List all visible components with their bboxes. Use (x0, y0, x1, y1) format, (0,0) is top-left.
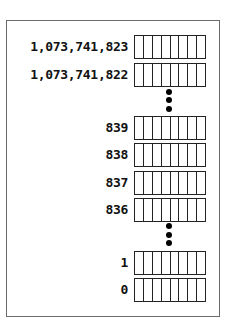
address-label: 1 (120, 251, 128, 275)
bit-cell (197, 117, 205, 139)
ellipsis-dot-icon (166, 97, 172, 103)
memory-row: 1,073,741,823 (0, 35, 236, 59)
ellipsis-dot-icon (166, 223, 172, 229)
memory-row: 0 (0, 278, 236, 302)
bit-cell (162, 172, 171, 194)
byte-cell (134, 198, 206, 222)
bit-cell (197, 252, 205, 274)
bit-cell (144, 64, 153, 86)
bit-cell (144, 117, 153, 139)
bit-cell (188, 117, 197, 139)
bit-cell (171, 279, 180, 301)
bit-cell (188, 144, 197, 166)
bit-cell (171, 117, 180, 139)
ellipsis-dot-icon (166, 240, 172, 246)
bit-cell (171, 252, 180, 274)
bit-cell (179, 172, 188, 194)
bit-cell (171, 144, 180, 166)
address-label: 1,073,741,823 (30, 35, 128, 59)
address-label: 837 (105, 171, 128, 195)
bit-cell (144, 279, 153, 301)
bit-cell (188, 279, 197, 301)
byte-cell (134, 251, 206, 275)
bit-cell (188, 252, 197, 274)
bit-cell (171, 172, 180, 194)
ellipsis-dot-icon (166, 232, 172, 238)
bit-cell (144, 144, 153, 166)
bit-cell (135, 36, 144, 58)
bit-cell (162, 144, 171, 166)
address-label: 836 (105, 198, 128, 222)
bit-cell (153, 172, 162, 194)
byte-cell (134, 63, 206, 87)
memory-row: 836 (0, 198, 236, 222)
byte-cell (134, 35, 206, 59)
bit-cell (197, 64, 205, 86)
byte-cell (134, 116, 206, 140)
bit-cell (153, 144, 162, 166)
bit-cell (171, 64, 180, 86)
bit-cell (162, 36, 171, 58)
bit-cell (197, 279, 205, 301)
memory-row: 837 (0, 171, 236, 195)
ellipsis-dot-icon (166, 89, 172, 95)
bit-cell (162, 117, 171, 139)
bit-cell (179, 199, 188, 221)
bit-cell (197, 172, 205, 194)
bit-cell (188, 199, 197, 221)
memory-row: 839 (0, 116, 236, 140)
bit-cell (197, 144, 205, 166)
bit-cell (135, 64, 144, 86)
ellipsis-dot-icon (166, 106, 172, 112)
bit-cell (144, 199, 153, 221)
address-label: 838 (105, 143, 128, 167)
bit-cell (153, 199, 162, 221)
byte-cell (134, 143, 206, 167)
bit-cell (153, 64, 162, 86)
bit-cell (162, 199, 171, 221)
address-label: 839 (105, 116, 128, 140)
memory-row: 838 (0, 143, 236, 167)
byte-cell (134, 171, 206, 195)
bit-cell (171, 36, 180, 58)
memory-row: 1,073,741,822 (0, 63, 236, 87)
bit-cell (153, 279, 162, 301)
bit-cell (144, 252, 153, 274)
bit-cell (197, 36, 205, 58)
bit-cell (135, 144, 144, 166)
bit-cell (144, 172, 153, 194)
bit-cell (162, 64, 171, 86)
bit-cell (153, 117, 162, 139)
bit-cell (179, 36, 188, 58)
bit-cell (188, 36, 197, 58)
bit-cell (153, 36, 162, 58)
bit-cell (135, 199, 144, 221)
bit-cell (179, 117, 188, 139)
bit-cell (179, 279, 188, 301)
bit-cell (135, 279, 144, 301)
memory-row: 1 (0, 251, 236, 275)
bit-cell (162, 252, 171, 274)
bit-cell (171, 199, 180, 221)
bit-cell (179, 64, 188, 86)
bit-cell (197, 199, 205, 221)
bit-cell (135, 172, 144, 194)
bit-cell (188, 172, 197, 194)
bit-cell (144, 36, 153, 58)
bit-cell (162, 279, 171, 301)
bit-cell (135, 117, 144, 139)
bit-cell (135, 252, 144, 274)
byte-cell (134, 278, 206, 302)
bit-cell (188, 64, 197, 86)
address-label: 1,073,741,822 (30, 63, 128, 87)
bit-cell (179, 252, 188, 274)
address-label: 0 (120, 278, 128, 302)
bit-cell (179, 144, 188, 166)
bit-cell (153, 252, 162, 274)
